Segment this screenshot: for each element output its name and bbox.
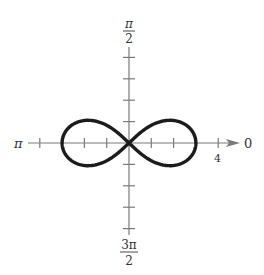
angle-label-3pi-over-2-numerator: 3π xyxy=(121,238,137,252)
angle-label-pi-over-2-denominator: 2 xyxy=(125,32,133,46)
angle-label-3pi-over-2-denominator: 2 xyxy=(125,254,133,268)
angle-label-pi-over-2-numerator: π xyxy=(124,17,134,31)
polar-lemniscate-plot: π 0 4 π 2 3π 2 xyxy=(0,0,264,275)
angle-label-zero: 0 xyxy=(244,136,252,151)
radial-tick-label: 4 xyxy=(214,152,221,165)
angle-label-pi: π xyxy=(13,136,23,151)
